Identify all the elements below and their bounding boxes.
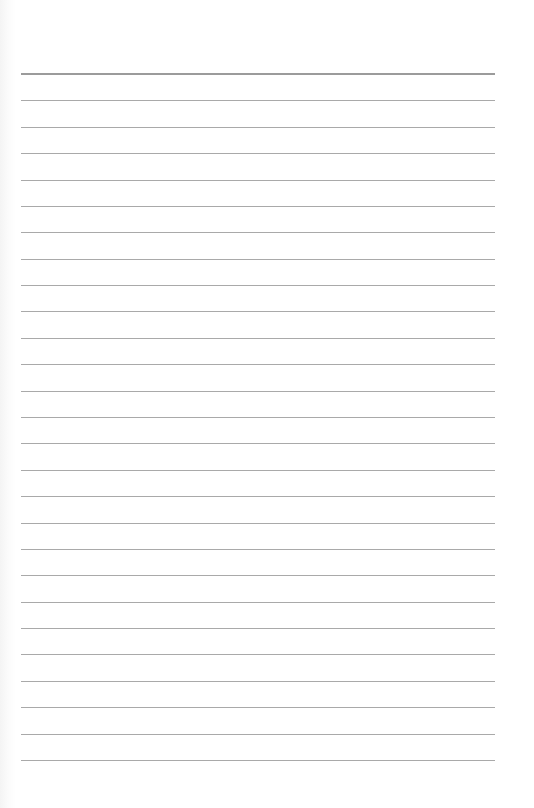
rule-line <box>21 470 495 471</box>
rule-line <box>21 628 495 629</box>
rule-line <box>21 443 495 444</box>
rule-line <box>21 180 495 181</box>
rule-line <box>21 707 495 708</box>
rule-line <box>21 575 495 576</box>
rule-line <box>21 311 495 312</box>
rule-line <box>21 681 495 682</box>
rule-line <box>21 549 495 550</box>
rule-line <box>21 602 495 603</box>
rule-line <box>21 523 495 524</box>
rule-line <box>21 285 495 286</box>
rule-line <box>21 153 495 154</box>
rule-line <box>21 654 495 655</box>
rule-line <box>21 127 495 128</box>
rule-line <box>21 259 495 260</box>
rule-line <box>21 391 495 392</box>
rule-line <box>21 364 495 365</box>
lined-paper-page <box>0 0 534 808</box>
rule-line <box>21 734 495 735</box>
top-heavy-rule-line <box>21 73 495 75</box>
rule-line <box>21 338 495 339</box>
rule-line <box>21 206 495 207</box>
rule-line <box>21 760 495 761</box>
rule-line <box>21 232 495 233</box>
rule-line <box>21 496 495 497</box>
rule-line <box>21 100 495 101</box>
rule-line <box>21 417 495 418</box>
